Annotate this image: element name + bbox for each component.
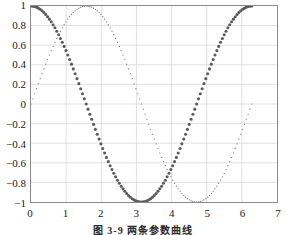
x-tick-label: 7 [275, 208, 281, 219]
y-tick-label: −0.2 [0, 118, 26, 129]
data-series-layer [31, 6, 277, 202]
y-tick-label: 0.6 [0, 39, 26, 50]
y-tick-label: 0 [0, 99, 26, 110]
figure-caption: 图 3-9 两条参数曲线 [0, 222, 286, 235]
figure-container: −1−0.8−0.6−0.4−0.200.20.40.60.81 0123456… [0, 0, 286, 235]
y-tick-label: −0.6 [0, 158, 26, 169]
x-tick-label: 2 [98, 208, 104, 219]
y-tick-label: −0.4 [0, 138, 26, 149]
y-tick-label: 0.8 [0, 19, 26, 30]
series-sin [31, 6, 252, 202]
y-tick-label: −1 [0, 198, 26, 209]
y-tick-label: −0.8 [0, 178, 26, 189]
x-tick-label: 4 [169, 208, 175, 219]
x-tick-label: 5 [204, 208, 210, 219]
series-cos [31, 6, 253, 202]
x-tick-label: 6 [240, 208, 246, 219]
x-tick-label: 1 [63, 208, 69, 219]
x-tick-label: 0 [27, 208, 33, 219]
y-tick-label: 1 [0, 0, 26, 11]
plot-area [30, 5, 278, 203]
x-tick-label: 3 [134, 208, 140, 219]
y-tick-label: 0.2 [0, 79, 26, 90]
y-tick-label: 0.4 [0, 59, 26, 70]
